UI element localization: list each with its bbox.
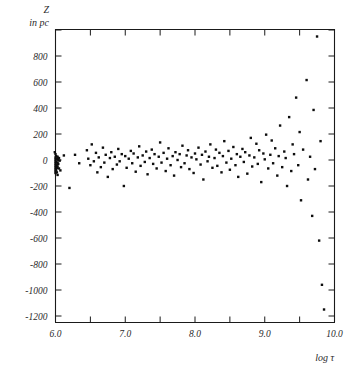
y-tick-label: 400 — [33, 104, 48, 114]
data-point — [211, 167, 213, 169]
data-point — [232, 146, 234, 148]
data-point — [137, 156, 139, 158]
data-point — [309, 156, 311, 158]
data-point — [173, 174, 175, 176]
data-point — [162, 152, 164, 154]
data-point — [89, 164, 91, 166]
data-point — [181, 145, 183, 147]
data-point — [260, 181, 262, 183]
data-point — [180, 166, 182, 168]
data-point — [314, 168, 316, 170]
data-point — [167, 147, 169, 149]
data-point — [250, 137, 252, 139]
data-point — [262, 152, 264, 154]
data-point — [311, 215, 313, 217]
data-point — [283, 150, 285, 152]
data-point — [307, 178, 309, 180]
data-point — [146, 173, 148, 175]
data-point — [195, 158, 197, 160]
data-point — [185, 154, 187, 156]
y-axis-title-line2: in pc — [29, 17, 49, 28]
data-point — [319, 140, 321, 142]
data-point — [284, 157, 286, 159]
data-point — [130, 150, 132, 152]
data-point — [112, 168, 114, 170]
data-point — [153, 153, 155, 155]
data-point — [243, 161, 245, 163]
data-point — [174, 151, 176, 153]
data-point — [298, 131, 300, 133]
data-point — [178, 153, 180, 155]
data-point — [117, 148, 119, 150]
data-point — [96, 171, 98, 173]
data-point — [290, 170, 292, 172]
data-point — [169, 164, 171, 166]
data-point — [131, 162, 133, 164]
data-point — [132, 152, 134, 154]
data-point — [63, 154, 65, 156]
data-point — [58, 159, 60, 161]
data-point — [237, 176, 239, 178]
data-point — [78, 162, 80, 164]
data-point — [278, 155, 280, 157]
scatter-plot-figure: 8006004002000-200-400-600-800-1000-1200 … — [0, 0, 353, 372]
data-point — [323, 308, 325, 310]
data-point — [271, 139, 273, 141]
data-point — [166, 158, 168, 160]
data-point — [116, 163, 118, 165]
x-tick-label: 6.0 — [50, 329, 62, 339]
data-point — [236, 153, 238, 155]
data-point — [222, 155, 224, 157]
data-point — [183, 162, 185, 164]
data-point — [305, 79, 307, 81]
data-point — [114, 156, 116, 158]
data-point — [264, 158, 266, 160]
data-point — [288, 116, 290, 118]
data-point — [57, 163, 59, 165]
data-point — [312, 109, 314, 111]
data-point — [251, 165, 253, 167]
data-point — [59, 169, 61, 171]
data-point — [74, 154, 76, 156]
data-point — [229, 169, 231, 171]
data-point — [253, 156, 255, 158]
data-point — [302, 148, 304, 150]
data-point — [208, 156, 210, 158]
data-point — [230, 158, 232, 160]
y-tick-label: 800 — [33, 52, 48, 62]
y-tick-label: -1200 — [25, 312, 47, 322]
data-point — [102, 146, 104, 148]
data-point — [123, 185, 125, 187]
data-point — [234, 164, 236, 166]
data-point — [291, 143, 293, 145]
y-tick-label: -600 — [30, 234, 48, 244]
data-point — [286, 185, 288, 187]
data-point — [206, 160, 208, 162]
data-point — [118, 160, 120, 162]
data-point — [98, 156, 100, 158]
data-point — [100, 166, 102, 168]
data-point — [152, 163, 154, 165]
data-point — [248, 154, 250, 156]
chart-background — [0, 0, 353, 372]
data-point — [257, 163, 259, 165]
data-point — [148, 157, 150, 159]
data-point — [160, 161, 162, 163]
data-point — [201, 154, 203, 156]
data-point — [225, 161, 227, 163]
data-point — [239, 156, 241, 158]
x-tick-label: 9.0 — [259, 329, 271, 339]
data-point — [316, 35, 318, 37]
data-point — [190, 156, 192, 158]
data-point — [125, 167, 127, 169]
data-point — [281, 166, 283, 168]
data-point — [56, 171, 58, 173]
data-point — [202, 178, 204, 180]
chart-canvas: 8006004002000-200-400-600-800-1000-1200 … — [0, 0, 353, 372]
data-point — [209, 143, 211, 145]
data-point — [241, 148, 243, 150]
data-point — [58, 157, 60, 159]
data-point — [255, 143, 257, 145]
data-point — [91, 143, 93, 145]
data-point — [213, 157, 215, 159]
